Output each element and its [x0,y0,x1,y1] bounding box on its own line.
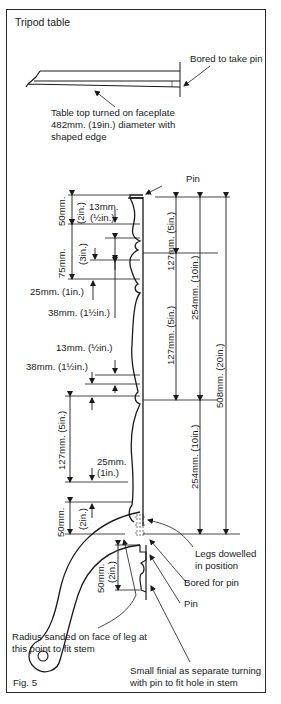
dim-38mm-top: 38mm. (1½in.) [48,307,110,318]
dim-50mm-top: 50mm. [56,197,67,226]
dim-254mm-upper: 254mm. (10in.) [189,255,200,320]
callout-pin-top: Pin [186,173,200,184]
tripod-table-drawing [0,0,281,704]
dim-2in-low: (2in.) [77,508,88,530]
dim-13mm-top: 13mm. [89,201,118,212]
dim-1in-low: (1in.) [97,467,119,478]
dim-2in-top: (2in.) [75,202,86,224]
callout-radius-line2: this point to fit stem [12,643,95,654]
callout-bored-for-pin: Bored for pin [184,577,239,588]
callout-finial-line1: Small finial as separate turning [130,665,261,676]
dim-half-in-top: (½in.) [90,212,115,223]
dim-25mm-top: 25mm. (1in.) [30,286,84,297]
callout-table-top-line2: 482mm. (19in.) diameter with [51,119,175,130]
figure-label: Fig. 5 [13,677,37,688]
callout-table-top-line1: Table top turned on faceplate [51,107,175,118]
callout-table-top-line3: shaped edge [51,131,106,142]
callout-legs-dowelled-line2: in position [195,560,238,571]
callout-bored-to-take-pin: Bored to take pin [190,53,263,64]
dim-254mm-lower: 254mm. (10in.) [189,424,200,489]
callout-finial-line2: with pin to fit hole in stem [130,677,238,688]
dim-508mm: 508mm. (20in.) [214,343,225,408]
dim-13mm-mid: 13mm. (½in.) [56,342,113,353]
dim-127mm-upper-right: 127mm. (5in.) [165,212,176,271]
dim-50mm-low: 50mm. [55,508,66,537]
dim-50mm-finial: 50mm. [95,564,106,593]
dim-25mm-low: 25mm. [97,456,126,467]
finial-profile [140,545,146,600]
callout-radius-line1: Radius sanded on face of leg at [12,631,147,642]
figure-title: Tripod table [15,17,70,28]
callout-legs-dowelled-line1: Legs dowelled [195,548,256,559]
dim-127mm-left: 127mm. (5in.) [56,411,67,470]
callout-pin-bottom: Pin [184,598,198,609]
table-top-profile [26,62,180,97]
dim-75mm: 75mm. [56,249,67,278]
dim-127mm-lower-right: 127mm. (5in.) [165,306,176,365]
dim-2in-finial: (2in.) [106,561,117,583]
dim-3in: (3in.) [77,243,88,265]
stem-profile [128,195,143,526]
dim-38mm-mid: 38mm. (1½in.) [26,361,88,372]
